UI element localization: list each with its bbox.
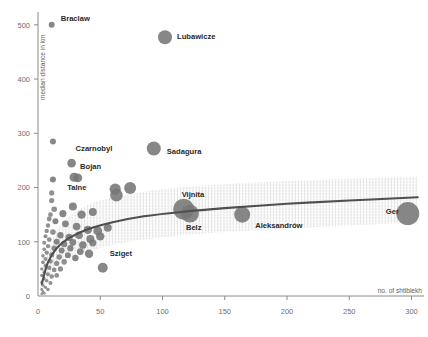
data-point bbox=[79, 241, 87, 249]
data-point bbox=[98, 263, 108, 273]
y-axis-title: median distance in km bbox=[39, 34, 46, 100]
point-label: Ger bbox=[386, 207, 399, 216]
data-point bbox=[45, 250, 49, 254]
x-tick-label: 50 bbox=[96, 307, 104, 316]
data-point bbox=[73, 223, 81, 231]
data-point bbox=[46, 223, 50, 227]
data-point bbox=[396, 202, 419, 225]
data-point bbox=[73, 173, 82, 182]
data-point bbox=[69, 203, 77, 211]
y-tick-label: 200 bbox=[17, 183, 30, 192]
y-tick-label: 0 bbox=[26, 292, 30, 301]
data-point bbox=[96, 232, 104, 240]
data-point bbox=[54, 273, 59, 278]
data-point bbox=[43, 234, 47, 238]
data-point bbox=[49, 22, 55, 28]
data-point bbox=[147, 141, 161, 155]
point-label: Braclaw bbox=[61, 14, 90, 23]
data-point bbox=[50, 176, 56, 182]
data-point bbox=[69, 239, 76, 246]
data-points bbox=[40, 22, 419, 295]
confidence-band bbox=[38, 14, 424, 296]
data-point bbox=[49, 190, 54, 195]
data-point bbox=[40, 267, 43, 270]
data-point bbox=[51, 206, 57, 212]
point-label: Czarnobyl bbox=[76, 144, 113, 153]
data-point bbox=[42, 248, 46, 252]
data-point bbox=[46, 288, 50, 292]
data-point bbox=[67, 159, 76, 168]
data-point bbox=[50, 138, 56, 144]
axes: 0100200300400500050100150200250300 bbox=[17, 12, 424, 316]
data-point bbox=[41, 261, 45, 265]
data-point bbox=[110, 189, 123, 202]
data-point bbox=[41, 254, 45, 258]
data-point bbox=[56, 254, 62, 260]
data-point bbox=[48, 212, 53, 217]
point-label: Aleksandrów bbox=[255, 221, 302, 230]
data-point bbox=[59, 247, 65, 253]
x-tick-label: 0 bbox=[36, 307, 40, 316]
x-tick-label: 100 bbox=[156, 307, 169, 316]
data-point bbox=[59, 210, 66, 217]
data-point bbox=[72, 255, 78, 261]
data-point bbox=[85, 250, 93, 258]
data-point bbox=[49, 198, 54, 203]
data-point bbox=[234, 207, 250, 223]
data-point bbox=[47, 237, 52, 242]
data-point bbox=[62, 220, 69, 227]
data-point bbox=[54, 261, 59, 266]
data-point bbox=[43, 292, 46, 295]
data-point bbox=[158, 30, 172, 44]
data-point bbox=[42, 241, 46, 245]
point-label: Lubawicze bbox=[177, 32, 215, 41]
point-label: Vijnita bbox=[182, 190, 205, 199]
point-label: Bojan bbox=[80, 162, 101, 171]
data-point bbox=[67, 245, 73, 251]
point-label: Belz bbox=[186, 223, 202, 232]
x-tick-label: 200 bbox=[281, 307, 294, 316]
data-point bbox=[57, 232, 63, 238]
data-point bbox=[48, 281, 52, 285]
x-tick-label: 250 bbox=[343, 307, 356, 316]
data-point bbox=[52, 268, 57, 273]
data-point bbox=[65, 252, 71, 258]
data-point bbox=[49, 274, 53, 278]
plot-canvas: 0100200300400500050100150200250300 Bracl… bbox=[0, 0, 428, 337]
data-point bbox=[43, 257, 47, 261]
y-tick-label: 400 bbox=[17, 75, 30, 84]
point-label: Talne bbox=[67, 183, 86, 192]
scatter-plot-figure: 0100200300400500050100150200250300 Bracl… bbox=[0, 0, 428, 337]
data-point bbox=[45, 229, 49, 233]
data-point bbox=[50, 229, 56, 235]
data-point bbox=[46, 272, 50, 276]
data-point bbox=[77, 248, 84, 255]
data-point bbox=[124, 182, 136, 194]
point-label: Sadagura bbox=[167, 147, 202, 156]
data-point bbox=[77, 210, 85, 218]
data-point bbox=[54, 239, 60, 245]
data-point bbox=[89, 208, 97, 216]
data-point bbox=[181, 205, 199, 223]
data-point bbox=[40, 293, 43, 296]
data-point bbox=[58, 266, 63, 271]
y-tick-label: 500 bbox=[17, 21, 30, 30]
data-point bbox=[45, 279, 49, 283]
point-label: Sziget bbox=[110, 249, 133, 258]
x-tick-label: 150 bbox=[219, 307, 232, 316]
data-point bbox=[89, 239, 96, 246]
data-point bbox=[61, 259, 67, 265]
y-tick-label: 100 bbox=[17, 238, 30, 247]
data-point bbox=[52, 218, 58, 224]
y-tick-label: 300 bbox=[17, 129, 30, 138]
data-point bbox=[47, 217, 52, 222]
x-tick-label: 300 bbox=[405, 307, 418, 316]
data-point bbox=[46, 244, 50, 248]
x-axis-title: no. of shtiblekh bbox=[378, 287, 423, 294]
